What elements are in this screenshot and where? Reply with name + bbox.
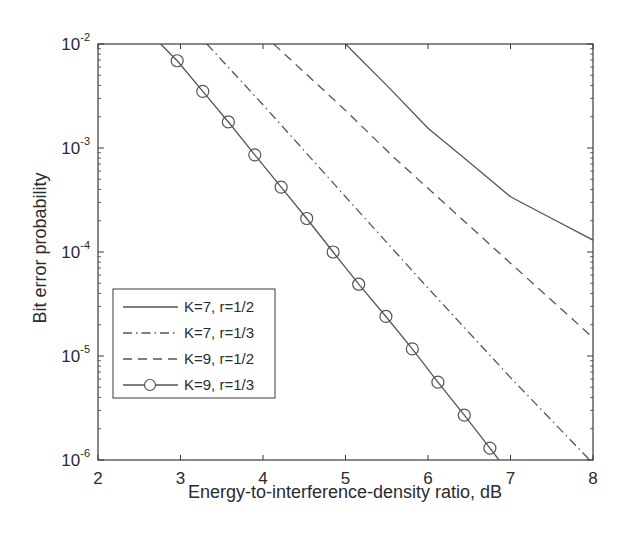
x-tick-label: 7: [506, 469, 515, 488]
legend-marker: [145, 380, 156, 391]
legend: K=7, r=1/2K=7, r=1/3K=9, r=1/2K=9, r=1/3: [113, 289, 275, 398]
legend-label: K=9, r=1/3: [184, 376, 254, 393]
series-line: [346, 44, 594, 240]
legend-label: K=7, r=1/2: [184, 298, 254, 315]
y-tick-label: 10-2: [61, 31, 90, 54]
y-tick-label: 10-4: [61, 239, 90, 262]
legend-label: K=7, r=1/3: [184, 324, 254, 341]
y-axis-label: Bit error probability: [30, 172, 50, 323]
y-tick-label: 10-5: [61, 343, 90, 366]
bit-error-chart: 2345678 10-610-510-410-310-2 Energy-to-i…: [0, 0, 628, 542]
x-tick-label: 3: [176, 469, 185, 488]
x-axis-label: Energy-to-interference-density ratio, dB: [188, 482, 502, 502]
y-tick-label: 10-3: [61, 135, 90, 158]
y-tick-label: 10-6: [61, 447, 90, 470]
x-tick-label: 8: [588, 469, 597, 488]
legend-label: K=9, r=1/2: [184, 350, 254, 367]
x-tick-label: 2: [93, 469, 102, 488]
